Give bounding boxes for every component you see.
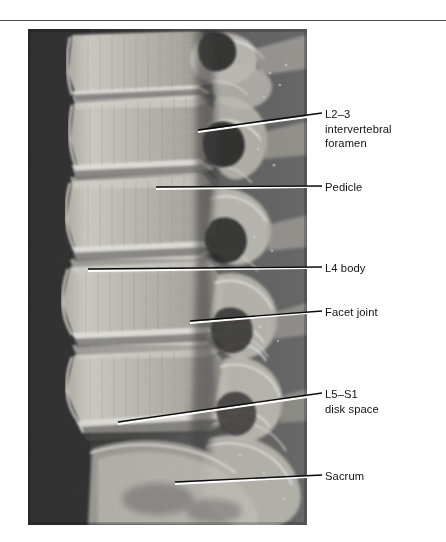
label-l4-body: L4 body [325, 261, 366, 276]
label-sacrum: Sacrum [325, 469, 364, 484]
label-pedicle: Pedicle [325, 180, 362, 195]
lumbar-spine-lateral-radiograph [28, 29, 307, 525]
figure-root: L2–3 intervertebral foramen Pedicle L4 b… [0, 0, 446, 542]
top-divider-rule [0, 20, 446, 21]
label-l5-s1-disk-space: L5–S1 disk space [325, 387, 379, 416]
label-facet-joint: Facet joint [325, 305, 378, 320]
label-l2-3-intervertebral-foramen: L2–3 intervertebral foramen [325, 107, 392, 151]
